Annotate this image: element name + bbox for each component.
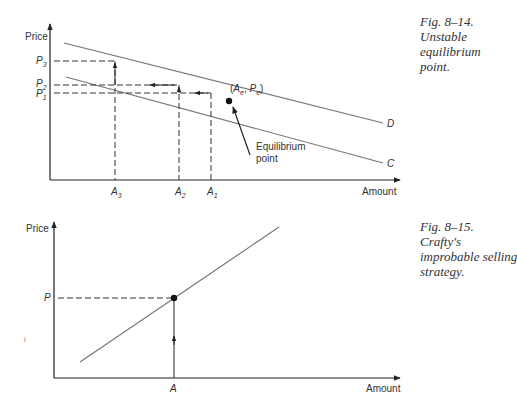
y-axis-label: Price xyxy=(25,31,48,42)
equilibrium-pointer-arrow xyxy=(233,107,250,155)
equilibrium-label-2: point xyxy=(256,153,278,164)
label-d: D xyxy=(387,118,394,129)
dashed-guides xyxy=(54,61,211,180)
caption-line: Fig. 8–14. xyxy=(420,14,481,29)
label-c: C xyxy=(387,158,395,169)
line-c xyxy=(66,77,383,163)
caption-line: equilibrium xyxy=(420,44,481,59)
supply-line xyxy=(80,227,279,362)
selling-point xyxy=(171,295,177,301)
caption-line: point. xyxy=(420,59,481,74)
equilibrium-label-1: Equilibrium xyxy=(256,141,305,152)
equilibrium-coords: (Ae, Pe) xyxy=(230,83,263,96)
stray-mark: i xyxy=(24,335,26,344)
fig-8-15: Price Amount P A i xyxy=(24,222,401,394)
tick-a1: A1 xyxy=(206,186,218,199)
caption-fig-8-14: Fig. 8–14. Unstable equilibrium point. xyxy=(420,14,481,74)
caption-line: strategy. xyxy=(420,264,517,279)
caption-line: Unstable xyxy=(420,29,481,44)
y-axis-label-2: Price xyxy=(26,223,49,234)
fig-8-14: Price Amount P3 P2 P1 A3 A2 A1 (Ae, Pe) … xyxy=(25,24,400,199)
caption-line: improbable selling xyxy=(420,249,517,264)
caption-fig-8-15: Fig. 8–15. Crafty's improbable selling s… xyxy=(420,219,517,279)
line-d xyxy=(64,43,383,123)
tick-a3: A3 xyxy=(110,186,122,199)
x-axis-label: Amount xyxy=(362,186,397,197)
caption-line: Fig. 8–15. xyxy=(420,219,517,234)
equilibrium-point xyxy=(226,98,232,104)
tick-p3: P3 xyxy=(36,55,47,68)
caption-line: Crafty's xyxy=(420,234,517,249)
tick-a: A xyxy=(169,383,177,394)
x-axis-label-2: Amount xyxy=(366,383,401,394)
tick-p: P xyxy=(44,292,51,303)
tick-a2: A2 xyxy=(174,186,186,199)
